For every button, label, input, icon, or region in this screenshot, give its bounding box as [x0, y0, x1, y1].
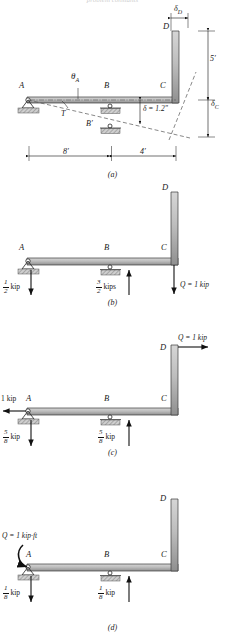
- fraction: 1 8: [98, 585, 104, 601]
- denominator: 8: [98, 438, 104, 445]
- unit: kip: [10, 588, 20, 597]
- label-b-A: A: [19, 243, 24, 252]
- force-label-c-load-Q: Q = 1 kip: [178, 334, 207, 342]
- fraction: 3 2: [96, 279, 102, 295]
- figure-d-drawing: [0, 480, 225, 638]
- unit: kip: [10, 432, 20, 441]
- numerator: 1: [98, 585, 104, 592]
- label-c-C: C: [161, 394, 167, 403]
- unit: kip: [10, 282, 20, 291]
- numerator: 1: [3, 585, 9, 592]
- force-label-c-reaction-A: 5 8 kip: [3, 429, 20, 445]
- delta-D-subscript: D: [178, 9, 182, 15]
- force-label-d-reaction-B: 1 8 kip: [98, 585, 115, 601]
- label-c-A: A: [26, 394, 31, 403]
- label-a-delta-D: δD: [174, 5, 182, 15]
- label-b-B: B: [104, 243, 109, 252]
- force-label-b-reaction-A: 1 2 kip: [3, 279, 20, 295]
- figure-a-drawing: [0, 0, 225, 165]
- label-d-C: C: [161, 550, 167, 559]
- label-a-B: B: [104, 81, 109, 90]
- caption-a: (a): [0, 170, 225, 179]
- label-a-delta-C: δC: [211, 100, 219, 110]
- label-b-D: D: [162, 183, 168, 192]
- label-a-A: A: [19, 81, 24, 90]
- label-a-delta-value: δ = 1.2": [143, 105, 168, 113]
- label-a-D: D: [163, 22, 169, 31]
- label-a-C: C: [160, 81, 166, 90]
- label-a-T: T: [61, 110, 65, 118]
- fraction: 1 2: [3, 279, 9, 295]
- denominator: 8: [98, 594, 104, 601]
- caption-b: (b): [0, 298, 225, 307]
- fraction: 5 8: [98, 429, 104, 445]
- force-label-d-reaction-A: 1 8 kip: [3, 585, 20, 601]
- force-label-c-reaction-B: 5 8 kip: [98, 429, 115, 445]
- label-d-A: A: [26, 550, 31, 559]
- caption-d: (d): [0, 623, 225, 632]
- numerator: 1: [3, 279, 9, 286]
- denominator: 8: [3, 438, 9, 445]
- label-a-B-prime: B′: [86, 120, 93, 128]
- fraction: 1 8: [3, 585, 9, 601]
- label-c-D: D: [160, 343, 166, 352]
- label-b-C: C: [161, 243, 167, 252]
- unit: kip: [105, 588, 115, 597]
- label-a-height: 5′: [210, 55, 216, 63]
- denominator: 8: [3, 594, 9, 601]
- unit: kip: [105, 432, 115, 441]
- label-d-D: D: [160, 494, 166, 503]
- caption-c: (c): [0, 448, 225, 457]
- force-label-b-reaction-B: 3 2 kips: [96, 279, 116, 295]
- label-a-span-AB: 8′: [63, 148, 69, 156]
- numerator: 3: [96, 279, 102, 286]
- label-a-theta-A: θA: [71, 72, 79, 83]
- fraction: 5 8: [3, 429, 9, 445]
- denominator: 2: [3, 288, 9, 295]
- numerator: 5: [3, 429, 9, 436]
- numerator: 5: [98, 429, 104, 436]
- force-label-c-reaction-A-horizontal: 1 kip: [1, 395, 16, 403]
- label-c-B: B: [104, 394, 109, 403]
- label-d-B: B: [104, 550, 109, 559]
- unit: kips: [103, 282, 116, 291]
- force-label-d-load-Q-moment: Q = 1 kip·ft: [2, 532, 37, 540]
- denominator: 2: [96, 288, 102, 295]
- delta-C-subscript: C: [215, 104, 219, 110]
- force-label-b-load-Q: Q = 1 kip: [180, 281, 209, 289]
- label-a-span-BC: 4′: [140, 148, 146, 156]
- theta-subscript: A: [75, 77, 79, 83]
